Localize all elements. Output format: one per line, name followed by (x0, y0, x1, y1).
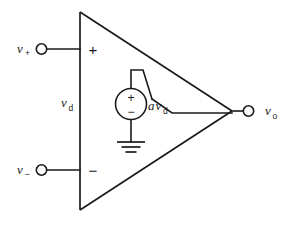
source-plus-sign: + (127, 91, 134, 105)
inverting-input-subscript: − (25, 169, 30, 179)
noninverting-input-terminal (36, 44, 80, 54)
triangle-bottom-edge (80, 111, 232, 210)
ground-symbol (117, 142, 145, 152)
dependent-source-gain: a (148, 98, 155, 113)
inverting-terminal-node-icon (36, 165, 46, 175)
output-terminal-node-icon (243, 106, 253, 116)
output-symbol: v (265, 103, 271, 118)
triangle-plus-sign: + (89, 41, 98, 58)
noninverting-input-label: v + (17, 41, 30, 58)
inverting-input-terminal (36, 165, 80, 175)
triangle-minus-sign: − (89, 162, 98, 179)
differential-voltage-subscript: d (69, 103, 74, 113)
inverting-input-symbol: v (17, 162, 23, 177)
differential-voltage-symbol: v (61, 95, 67, 110)
output-subscript: o (273, 111, 278, 121)
circuit-schematic-canvas: + − + − v + v − v d a v d (0, 0, 296, 225)
triangle-top-edge (80, 12, 232, 111)
dependent-source-symbol: v (156, 98, 162, 113)
noninverting-input-subscript: + (25, 48, 30, 58)
dependent-source-subscript: d (163, 106, 168, 116)
output-terminal (232, 106, 254, 116)
differential-voltage-label: v d (61, 95, 74, 113)
dependent-source-label: a v d (148, 98, 168, 116)
opamp-circuit-diagram: + − + − v + v − v d a v d (0, 0, 296, 225)
noninverting-input-symbol: v (17, 41, 23, 56)
source-minus-sign: − (127, 105, 134, 119)
output-label: v o (265, 103, 278, 121)
dependent-voltage-source: + − (116, 89, 147, 120)
inverting-input-label: v − (17, 162, 30, 179)
noninverting-terminal-node-icon (36, 44, 46, 54)
